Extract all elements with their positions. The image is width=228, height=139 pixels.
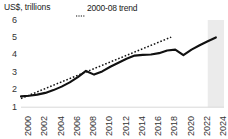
y-tick-label: 4 [5,50,17,59]
x-tick-label: 2018 [170,116,179,136]
x-tick-label: 2022 [203,116,212,136]
y-tick-label: 6 [5,16,17,25]
trend-line-series [21,37,171,98]
forecast-shaded-band [208,20,224,107]
x-tick-label: 2016 [154,116,163,136]
x-tick-label: 2024 [219,116,228,136]
y-tick-label: 3 [5,68,17,77]
y-tick-label: 1 [5,103,17,112]
x-tick-label: 2020 [187,116,196,136]
y-tick-label: 5 [5,33,17,42]
x-tick-label: 2008 [89,116,98,136]
actual-line-series [21,37,216,96]
chart-container: US$, trillions 2000-08 trend 654321 2000… [0,0,228,139]
x-tick-label: 2004 [57,116,66,136]
x-tick-label: 2010 [105,116,114,136]
x-tick-label: 2000 [24,116,33,136]
x-tick-label: 2014 [138,116,147,136]
x-tick-label: 2012 [122,116,131,136]
x-tick-label: 2002 [40,116,49,136]
x-tick-label: 2006 [73,116,82,136]
y-tick-label: 2 [5,85,17,94]
